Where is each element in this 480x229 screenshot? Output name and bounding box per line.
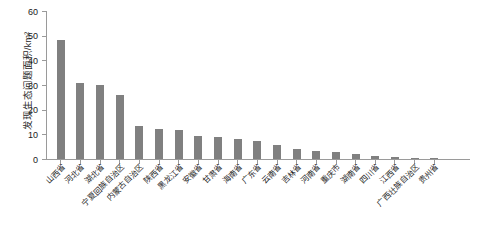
x-axis-category-label: 山西省 [44, 162, 67, 185]
bar-slot [189, 12, 209, 159]
y-axis-tick-label: 10 [28, 130, 38, 140]
bar [273, 145, 281, 159]
x-axis-label-slot: 湖南省 [346, 161, 366, 229]
y-axis-tick-label: 50 [28, 31, 38, 41]
x-axis-label-slot: 吉林省 [287, 161, 307, 229]
bar-slot [149, 12, 169, 159]
bar-slot [267, 12, 287, 159]
bar [57, 40, 65, 159]
x-axis-category-labels: 山西省河北省湖北省宁夏回族自治区内蒙古自治区陕西省黑龙江省安徽省甘肃省海南省广东… [47, 161, 470, 229]
bar-slot [90, 12, 110, 159]
y-axis-tick-label: 40 [28, 56, 38, 66]
x-axis-label-slot: 内蒙古自治区 [130, 161, 150, 229]
y-axis-tick-label: 0 [33, 155, 38, 165]
bar [214, 137, 222, 159]
bar-slot [51, 12, 71, 159]
y-axis-tick-label: 20 [28, 105, 38, 115]
x-axis-label-slot: 广东省 [248, 161, 268, 229]
x-axis-label-slot: 安徽省 [189, 161, 209, 229]
bar [332, 152, 340, 159]
x-axis-label-slot: 贵州省 [424, 161, 444, 229]
bar-slot [346, 12, 366, 159]
y-axis-tick-label: 30 [28, 81, 38, 91]
ecological-problem-area-bar-chart: 发现生态问题面积/km² 0102030405060 山西省河北省湖北省宁夏回族… [0, 0, 480, 229]
bar-slot [208, 12, 228, 159]
x-axis-label-slot: 河南省 [307, 161, 327, 229]
bar [352, 154, 360, 159]
bar-slot [326, 12, 346, 159]
x-axis-label-slot: 广西壮族自治区 [405, 161, 425, 229]
bar-slot [110, 12, 130, 159]
bar-slot [169, 12, 189, 159]
plot-area: 0102030405060 [46, 12, 470, 160]
bar-slot [71, 12, 91, 159]
bar [430, 158, 438, 159]
bar [155, 129, 163, 159]
bar [293, 149, 301, 159]
bar-slot [248, 12, 268, 159]
bar-slot [287, 12, 307, 159]
bar [175, 130, 183, 159]
bar [253, 141, 261, 159]
bar [312, 151, 320, 159]
bar-slot [307, 12, 327, 159]
bar-slot [385, 12, 405, 159]
x-axis-label-slot: 甘肃省 [208, 161, 228, 229]
bar [116, 95, 124, 159]
bar-slot [405, 12, 425, 159]
bar-slot [366, 12, 386, 159]
y-axis-tick-label: 60 [28, 7, 38, 17]
bar [76, 83, 84, 159]
bar-series [47, 12, 470, 159]
x-axis-label-slot: 海南省 [228, 161, 248, 229]
x-axis-label-slot: 云南省 [267, 161, 287, 229]
bar-slot [130, 12, 150, 159]
bar [234, 139, 242, 159]
x-axis-label-slot: 山西省 [51, 161, 71, 229]
bar [96, 85, 104, 159]
x-axis-label-slot: 重庆市 [326, 161, 346, 229]
bar [135, 126, 143, 159]
bar [194, 136, 202, 159]
bar [411, 158, 419, 159]
bar [371, 156, 379, 159]
x-axis-label-slot: 黑龙江省 [169, 161, 189, 229]
bar [391, 157, 399, 159]
bar-slot [424, 12, 444, 159]
x-axis-label-slot: 陕西省 [149, 161, 169, 229]
bar-slot [228, 12, 248, 159]
